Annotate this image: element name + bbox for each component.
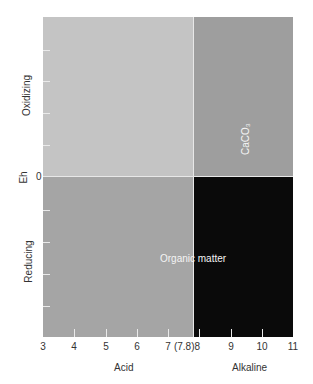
x-tick-label-7-8-8: (7.8)8	[174, 341, 200, 352]
x-tick-label-4: 4	[71, 341, 77, 352]
oxidizing-label: Oxidizing	[21, 75, 32, 116]
x-tick-label-9: 9	[228, 341, 234, 352]
reducing-label: Reducing	[23, 240, 34, 282]
y-tick	[43, 274, 50, 275]
y-tick	[43, 50, 50, 51]
y-tick	[43, 81, 50, 82]
y-tick	[43, 242, 50, 243]
ph-boundary-line	[193, 17, 194, 337]
x-tick	[199, 329, 200, 337]
x-tick	[168, 329, 169, 337]
x-tick	[106, 329, 107, 337]
eh-zero-line	[43, 176, 293, 177]
y-tick	[43, 210, 50, 211]
y-tick	[43, 145, 50, 146]
organic-matter-label: Organic matter	[160, 253, 226, 264]
x-tick	[137, 329, 138, 337]
eh-ph-diagram: CaCO₃ Organic matter	[43, 17, 293, 337]
x-tick-label-5: 5	[103, 341, 109, 352]
x-tick-label-7: 7	[165, 341, 171, 352]
y-tick	[43, 113, 50, 114]
acid-label: Acid	[114, 362, 133, 373]
x-tick	[262, 329, 263, 337]
y-tick	[43, 306, 50, 307]
x-tick-label-6: 6	[134, 341, 140, 352]
x-tick	[231, 329, 232, 337]
eh-axis-label: Eh	[18, 171, 29, 183]
x-tick-label-3: 3	[40, 341, 46, 352]
eh-zero-tick-label: 0	[36, 171, 42, 182]
region-oxidizing-acid	[43, 17, 193, 177]
x-tick-label-11: 11	[288, 341, 298, 352]
caco3-label: CaCO₃	[240, 123, 251, 155]
alkaline-label: Alkaline	[232, 362, 267, 373]
x-tick-label-10: 10	[256, 341, 267, 352]
x-tick	[74, 329, 75, 337]
